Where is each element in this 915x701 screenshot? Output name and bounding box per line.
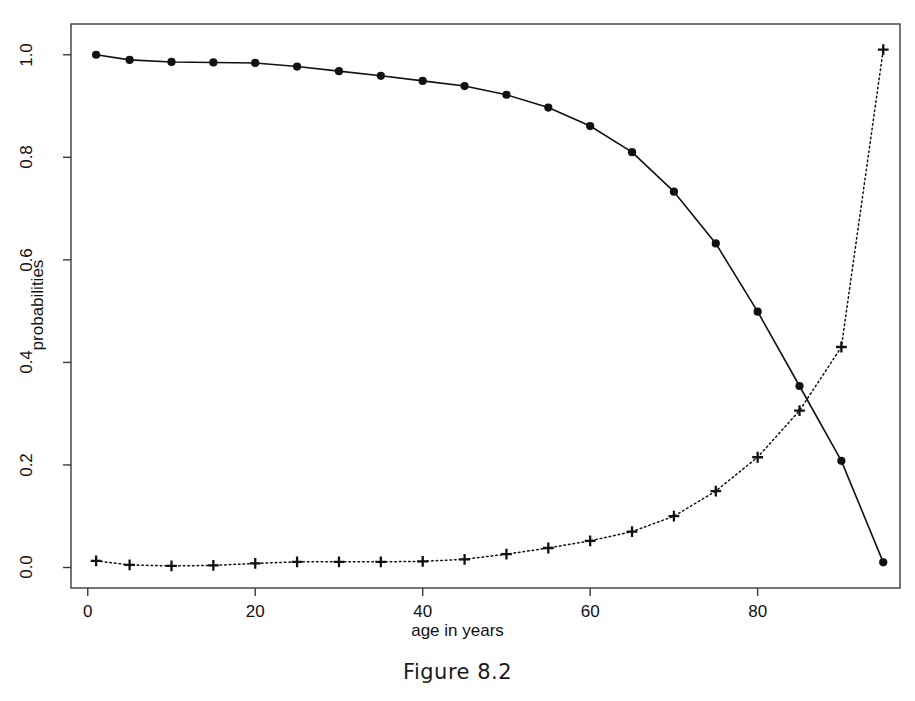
data-point-marker: [627, 526, 638, 537]
plot-frame: [71, 24, 900, 588]
data-point-marker: [166, 561, 177, 572]
data-point-marker: [292, 556, 303, 567]
data-point-marker: [878, 44, 889, 55]
y-axis-ticks: [63, 55, 71, 568]
figure-container: 0204060800.00.20.40.60.81.0 probabilitie…: [0, 0, 915, 701]
x-tick-label: 20: [225, 602, 285, 622]
data-point-marker: [586, 122, 594, 130]
series-2: [91, 44, 889, 571]
x-tick-label: 80: [728, 602, 788, 622]
data-point-marker: [795, 382, 803, 390]
data-point-marker: [375, 556, 386, 567]
data-point-marker: [794, 405, 805, 416]
x-tick-label: 0: [58, 602, 118, 622]
x-tick-label: 60: [560, 602, 620, 622]
x-axis-ticks: [88, 588, 758, 596]
data-point-marker: [293, 62, 301, 70]
x-tick-label: 40: [393, 602, 453, 622]
data-point-marker: [92, 51, 100, 59]
x-axis-title: age in years: [0, 621, 915, 641]
data-point-marker: [209, 58, 217, 66]
data-point-marker: [417, 556, 428, 567]
data-point-marker: [419, 77, 427, 85]
data-point-marker: [543, 543, 554, 554]
y-axis-title: probabilities: [28, 225, 48, 385]
series-line: [96, 50, 883, 566]
data-point-marker: [91, 555, 102, 566]
data-point-marker: [334, 556, 345, 567]
data-point-marker: [879, 558, 887, 566]
data-point-marker: [585, 535, 596, 546]
data-point-marker: [710, 486, 721, 497]
y-tick-label: 0.2: [17, 435, 37, 495]
data-point-marker: [167, 58, 175, 66]
data-point-marker: [837, 457, 845, 465]
data-point-marker: [501, 549, 512, 560]
data-point-marker: [754, 308, 762, 316]
data-point-marker: [377, 72, 385, 80]
chart-plot-area: 0204060800.00.20.40.60.81.0: [0, 0, 915, 701]
chart-svg: [0, 0, 915, 701]
data-point-marker: [670, 188, 678, 196]
data-point-marker: [251, 59, 259, 67]
figure-caption: Figure 8.2: [0, 660, 915, 684]
data-point-marker: [250, 558, 261, 569]
data-point-marker: [126, 56, 134, 64]
y-tick-label: 1.0: [17, 25, 37, 85]
y-tick-label: 0.0: [17, 537, 37, 597]
series-1: [92, 51, 887, 567]
data-point-marker: [460, 82, 468, 90]
data-point-marker: [544, 103, 552, 111]
data-point-marker: [124, 560, 135, 571]
data-point-marker: [836, 342, 847, 353]
series-line: [96, 55, 883, 563]
data-point-marker: [712, 239, 720, 247]
data-point-marker: [669, 511, 680, 522]
data-point-marker: [335, 67, 343, 75]
data-point-marker: [628, 148, 636, 156]
data-point-marker: [208, 560, 219, 571]
y-tick-label: 0.8: [17, 127, 37, 187]
data-point-marker: [459, 554, 470, 565]
data-point-marker: [502, 91, 510, 99]
